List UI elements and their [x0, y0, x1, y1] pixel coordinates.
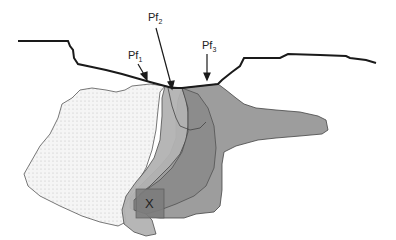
plume-diagram: Pf1 Pf2 Pf3 X: [0, 0, 396, 240]
arrow-pf2: [156, 28, 174, 89]
arrow-pf1: [138, 64, 147, 80]
label-pf1: Pf1: [128, 49, 142, 63]
label-pf3: Pf3: [202, 39, 216, 53]
arrow-pf3: [204, 54, 210, 80]
label-pf2: Pf2: [148, 11, 162, 25]
marker-x: X: [145, 196, 154, 211]
surface-line: [18, 41, 376, 88]
